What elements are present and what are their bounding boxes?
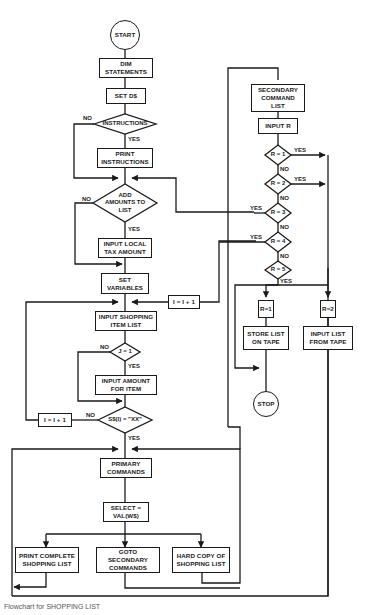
input-list-tape-box: INPUT LIST FROM TAPE [303,326,353,350]
print-complete-list-box: PRINT COMPLETE SHOPPING LIST [15,547,79,573]
figure-caption: Flowchart for SHOPPING LIST [4,603,100,610]
set-variables-box: SET VARIABLES [101,273,149,294]
r1-yes-label: YES [294,147,306,153]
r-equals-4-decision: R = 4 [265,237,291,247]
hard-copy-box: HARD COPY OF SHOPPING LIST [172,547,230,573]
instructions-no-label: NO [83,115,92,121]
instructions-decision: INSTRUCTIONS [94,118,156,130]
start-terminal: START [110,20,140,50]
r2-no-label: NO [280,195,289,201]
input-shopping-item-box: INPUT SHOPPING ITEM LIST [95,311,157,331]
add-amounts-decision: ADD AMOUNTS TO LIST [98,190,152,216]
r3-no-label: NO [280,224,289,230]
add-amounts-yes-label: YES [128,226,140,232]
add-amounts-no-label: NO [82,196,91,202]
select-box: SELECT = VAL(W$) [103,502,149,522]
input-amount-box: INPUT AMOUNT FOR ITEM [95,375,157,395]
s-check-decision: S$(I) = "XX" [100,415,150,425]
r3-yes-label: YES [250,205,262,211]
stop-terminal: STOP [253,391,279,417]
print-instructions-box: PRINT INSTRUCTIONS [97,148,153,168]
r4-yes-label: YES [250,234,262,240]
j-no-label: NO [100,344,109,350]
r5-yes-label: YES [280,278,292,284]
increment-i-right-box: I = I + 1 [168,295,200,309]
r-equals-5-decision: R = 5 [265,265,291,275]
store-list-tape-box: STORE LIST ON TAPE [243,326,289,350]
j-yes-label: YES [128,363,140,369]
s-check-yes-label: YES [128,435,140,441]
r-equals-3-decision: R = 3 [265,208,291,218]
r1-no-label: NO [280,166,289,172]
primary-commands-box: PRIMARY COMMANDS [100,458,152,478]
r2-yes-label: YES [294,176,306,182]
r-equals-2-decision: R = 2 [265,179,291,189]
j-equals-1-decision: J = 1 [110,347,140,357]
input-tax-box: INPUT LOCAL TAX AMOUNT [98,238,152,258]
input-r-box: INPUT R [258,118,298,134]
r-equals-1-decision: R = 1 [265,150,291,160]
instructions-yes-label: YES [128,136,140,142]
r2-box: R=2 [320,300,336,318]
s-check-no-label: NO [86,412,95,418]
secondary-command-list-box: SECONDARY COMMAND LIST [251,84,305,112]
increment-i-left-box: I = I + 1 [38,413,72,427]
set-d-box: SET D$ [106,88,146,104]
goto-secondary-box: GOTO SECONDARY COMMANDS [96,547,160,573]
r4-no-label: NO [280,253,289,259]
r1-box: R=1 [258,300,274,318]
dim-statements-box: DIM STATEMENTS [99,58,153,78]
